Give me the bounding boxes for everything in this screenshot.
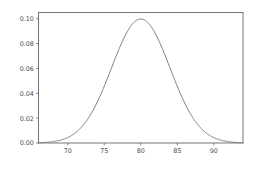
y-tick-label: 0.08 <box>20 40 34 48</box>
y-tick-label: 0.10 <box>20 15 34 23</box>
y-tick-label: 0.06 <box>20 65 34 73</box>
normal-distribution-plot: 70758085900.000.020.040.060.080.10 <box>0 0 255 172</box>
chart-figure: 70758085900.000.020.040.060.080.10 <box>0 0 255 172</box>
x-axis: 7075808590 <box>64 143 218 155</box>
y-tick-label: 0.02 <box>20 115 34 123</box>
density-curve <box>39 19 244 143</box>
axes-frame <box>39 13 244 144</box>
y-tick-label: 0.04 <box>20 90 34 98</box>
y-axis: 0.000.020.040.060.080.10 <box>20 15 39 147</box>
x-tick-label: 90 <box>210 147 218 155</box>
x-tick-label: 80 <box>137 147 145 155</box>
y-tick-label: 0.00 <box>20 139 34 147</box>
x-tick-label: 75 <box>100 147 108 155</box>
x-tick-label: 70 <box>64 147 72 155</box>
x-tick-label: 85 <box>173 147 181 155</box>
